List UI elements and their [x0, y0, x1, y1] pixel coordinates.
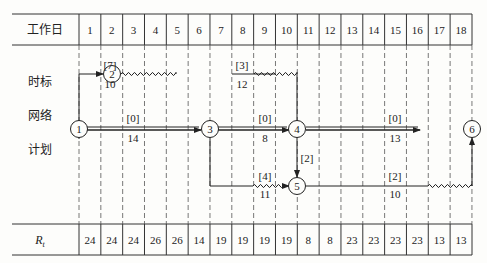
float-5-6: [2]: [389, 170, 402, 182]
day-header: 13: [346, 24, 358, 36]
svg-text:6: 6: [469, 123, 475, 135]
side-label-3: 计划: [28, 143, 52, 157]
resource-value: 23: [390, 234, 402, 246]
day-header: 11: [303, 24, 314, 36]
day-header: 16: [412, 24, 424, 36]
svg-text:5: 5: [294, 180, 300, 192]
resource-value: 19: [281, 234, 293, 246]
svg-text:4: 4: [294, 123, 300, 135]
float-1-2: [7]: [104, 59, 117, 71]
svg-text:3: 3: [207, 123, 213, 135]
resource-value: 19: [215, 234, 227, 246]
resource-value: 19: [237, 234, 249, 246]
node-3: 3: [202, 121, 219, 138]
resource-value: 14: [194, 234, 206, 246]
resource-value: 23: [412, 234, 424, 246]
resource-2-4: 12: [237, 78, 248, 90]
resource-value: 8: [305, 234, 311, 246]
footer-row-label: Rt: [34, 233, 45, 249]
resource-3-5: 11: [260, 188, 271, 200]
float-4-6: [0]: [389, 112, 402, 124]
side-label-2: 网络: [28, 108, 52, 123]
day-header: 4: [153, 24, 159, 36]
resource-value: 13: [456, 234, 468, 246]
day-header: 10: [281, 24, 293, 36]
resource-value: 23: [368, 234, 380, 246]
resource-value: 8: [327, 234, 333, 246]
header-row-label: 工作日: [27, 23, 63, 37]
node-6: 6: [464, 121, 481, 138]
node-4: 4: [289, 121, 306, 138]
day-header: 5: [174, 24, 180, 36]
resource-1-3: 14: [128, 132, 140, 144]
side-label-1: 时标: [28, 75, 52, 89]
resource-3-4: 8: [262, 132, 268, 144]
resource-value: 26: [150, 234, 162, 246]
day-header: 9: [262, 24, 268, 36]
day-header: 7: [218, 24, 224, 36]
day-header: 3: [131, 24, 137, 36]
node-5: 5: [289, 178, 306, 195]
svg-text:1: 1: [76, 123, 82, 135]
resource-value: 13: [434, 234, 446, 246]
resource-value: 23: [346, 234, 358, 246]
resource-value: 26: [172, 234, 184, 246]
resource-4-6: 13: [390, 132, 402, 144]
day-header: 18: [456, 24, 468, 36]
resource-value: 24: [106, 234, 118, 246]
day-header: 6: [196, 24, 202, 36]
float-1-3: [0]: [127, 112, 140, 124]
resource-value: 24: [128, 234, 140, 246]
float-4-5: [2]: [301, 152, 314, 164]
day-header: 12: [325, 24, 336, 36]
resource-value: 24: [84, 234, 96, 246]
float-3-4: [0]: [259, 112, 272, 124]
day-header: 14: [368, 24, 380, 36]
day-header: 8: [240, 24, 246, 36]
float-2-4: [3]: [236, 59, 249, 71]
time-scaled-network-diagram: 工作日 123456789101112131415161718 时标 网络 计划…: [0, 0, 487, 263]
resource-1-2: 10: [105, 78, 117, 90]
day-header: 2: [109, 24, 115, 36]
day-header: 17: [434, 24, 446, 36]
day-header: 1: [87, 24, 93, 36]
resource-value: 19: [259, 234, 271, 246]
float-3-5: [4]: [259, 170, 272, 182]
resource-5-6: 10: [390, 188, 402, 200]
node-1: 1: [71, 121, 88, 138]
day-header: 15: [390, 24, 402, 36]
